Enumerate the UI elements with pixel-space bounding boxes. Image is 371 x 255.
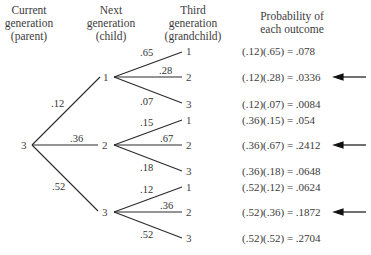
branch-prob-1-3: .07 <box>140 96 153 107</box>
child-node-2: 2 <box>102 140 108 151</box>
grandchild-node: 3 <box>186 99 192 110</box>
grandchild-node: 2 <box>186 140 192 151</box>
branch-prob-2-1: .15 <box>140 117 153 128</box>
arrow-left-icon <box>334 74 343 80</box>
arrow-left-icon <box>334 209 343 215</box>
grandchild-node: 3 <box>186 233 192 244</box>
outcome-row: (.52)(.12) = .0624 <box>242 182 321 193</box>
grandchild-node: 1 <box>186 115 192 126</box>
branch-root-to-child-1 <box>32 77 100 145</box>
root-node: 3 <box>21 140 27 151</box>
branch-prob-1-2: .28 <box>159 65 172 76</box>
outcome-row: (.36)(.15) = .054 <box>242 115 315 126</box>
outcome-row: (.36)(.18) = .0648 <box>242 166 321 177</box>
branch-prob-2-3: .18 <box>140 162 153 173</box>
grandchild-node: 1 <box>186 182 192 193</box>
outcome-row: (.12)(.07) = .0084 <box>242 99 321 110</box>
outcome-row: (.12)(.65) = .078 <box>242 46 315 57</box>
child-node-1: 1 <box>103 72 109 83</box>
outcome-row-highlighted: (.36)(.67) = .2412 <box>242 140 321 151</box>
branch-prob-root-1: .12 <box>51 98 64 109</box>
branch-prob-1-1: .65 <box>140 47 153 58</box>
outcome-row-highlighted: (.12)(.28) = .0336 <box>242 72 321 83</box>
outcome-row-highlighted: (.52)(.36) = .1872 <box>242 207 321 218</box>
branch-prob-3-2: .36 <box>160 200 173 211</box>
outcome-row: (.52)(.52) = .2704 <box>242 233 321 244</box>
arrow-left-icon <box>334 142 343 148</box>
grandchild-node: 2 <box>186 207 192 218</box>
branch-prob-root-2: .36 <box>70 133 83 144</box>
branch-root-to-child-3 <box>32 145 98 211</box>
child-node-3: 3 <box>102 207 108 218</box>
grandchild-node: 1 <box>186 46 192 57</box>
branch-prob-2-2: .67 <box>160 133 173 144</box>
branch-prob-3-3: .52 <box>140 229 153 240</box>
branch-prob-3-1: .12 <box>140 184 153 195</box>
branch-prob-root-3: .52 <box>52 181 65 192</box>
grandchild-node: 2 <box>186 72 192 83</box>
grandchild-node: 3 <box>186 166 192 177</box>
